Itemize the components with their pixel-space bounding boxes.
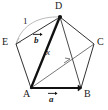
vertex-label-B: B	[84, 89, 91, 99]
vector-b-label: b	[34, 36, 39, 45]
vertex-label-A: A	[23, 89, 30, 99]
vector-a-label: a	[49, 95, 54, 104]
point-d-dot	[58, 15, 62, 19]
vertex-label-C: C	[97, 37, 104, 47]
geometry-figure: A B C D E 1 x a b	[0, 0, 108, 110]
vector-arrow-accent-icon	[48, 91, 55, 95]
vector-b-letter: b	[34, 35, 39, 45]
vertex-label-D: D	[55, 1, 62, 11]
vector-a-label-glyph: a	[49, 95, 54, 104]
vertex-label-E: E	[2, 37, 8, 47]
vector-b-label-glyph: b	[34, 36, 39, 45]
diagonal-d-b	[60, 17, 81, 88]
vector-b-line	[31, 19, 59, 88]
segment-label-x: x	[46, 48, 50, 57]
arrowhead-a-c	[64, 58, 70, 63]
vector-a-letter: a	[49, 94, 54, 104]
length-label-1: 1	[23, 17, 28, 26]
vector-arrow-accent-icon-b	[33, 32, 40, 36]
